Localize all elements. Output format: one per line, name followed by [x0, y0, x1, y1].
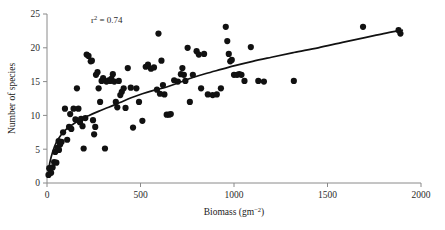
- data-point: [229, 57, 235, 63]
- x-tick-label: 0: [45, 190, 50, 200]
- y-tick-label: 15: [31, 77, 41, 87]
- data-point: [56, 147, 62, 153]
- data-point: [179, 65, 185, 71]
- y-tick-label: 0: [35, 178, 40, 188]
- data-point: [223, 24, 229, 30]
- data-point: [218, 85, 224, 91]
- y-tick-label: 10: [31, 111, 41, 121]
- data-point: [196, 51, 202, 57]
- data-point: [97, 99, 103, 105]
- data-point: [168, 111, 174, 117]
- data-point: [238, 72, 244, 78]
- scatter-points-layer: [45, 24, 403, 178]
- data-point: [261, 79, 267, 85]
- data-point: [58, 139, 64, 145]
- data-point: [62, 106, 68, 112]
- data-point: [198, 85, 204, 91]
- data-point: [255, 78, 261, 84]
- x-tick-label: 2000: [412, 190, 431, 200]
- x-axis-title: Biomass (gm−2): [204, 206, 265, 218]
- data-point: [241, 78, 247, 84]
- data-point: [125, 65, 131, 71]
- data-point: [130, 124, 136, 130]
- data-point: [116, 78, 122, 84]
- x-tick-label: 1000: [225, 190, 244, 200]
- y-axis-title: Number of species: [7, 63, 17, 135]
- data-point: [248, 44, 254, 50]
- data-point: [79, 123, 85, 129]
- data-point: [64, 137, 70, 143]
- data-point: [81, 145, 87, 151]
- y-axis-ticks: [43, 14, 47, 183]
- data-point: [151, 64, 157, 70]
- y-tick-label: 25: [31, 9, 41, 19]
- data-point: [110, 71, 116, 77]
- data-point: [128, 85, 134, 91]
- x-tick-label: 500: [133, 190, 148, 200]
- data-point: [74, 85, 80, 91]
- r-squared-annotation: r2 = 0.74: [91, 14, 123, 25]
- data-point: [214, 91, 220, 97]
- x-axis-ticks: [47, 183, 421, 187]
- data-point: [90, 117, 96, 123]
- data-point: [96, 85, 102, 91]
- data-point: [187, 99, 193, 105]
- x-tick-label: 1500: [318, 190, 337, 200]
- data-point: [161, 91, 167, 97]
- data-point: [291, 78, 297, 84]
- y-tick-label: 20: [31, 43, 41, 53]
- data-point: [91, 131, 97, 137]
- data-point: [139, 118, 145, 124]
- data-point: [155, 31, 161, 37]
- data-point: [185, 45, 191, 51]
- data-point: [136, 99, 142, 105]
- plot-canvas: 0510152025 0500100015002000 r2 = 0.74 Bi…: [0, 0, 445, 230]
- data-point: [201, 51, 207, 57]
- data-point: [181, 72, 187, 78]
- y-tick-label: 5: [35, 145, 40, 155]
- data-point: [102, 145, 108, 151]
- x-axis-tick-labels: 0500100015002000: [45, 190, 431, 200]
- data-point: [67, 111, 73, 117]
- data-point: [121, 85, 127, 91]
- data-point: [94, 69, 100, 75]
- data-point: [89, 58, 95, 64]
- data-point: [75, 106, 81, 112]
- data-point: [158, 58, 164, 64]
- y-axis-tick-labels: 0510152025: [31, 9, 41, 188]
- data-point: [360, 24, 366, 30]
- data-point: [53, 160, 59, 166]
- data-point: [226, 51, 232, 57]
- data-point: [224, 38, 230, 44]
- scatter-chart-figure: 0510152025 0500100015002000 r2 = 0.74 Bi…: [0, 0, 445, 230]
- data-point: [122, 105, 128, 111]
- data-point: [133, 85, 139, 91]
- data-point: [92, 124, 98, 130]
